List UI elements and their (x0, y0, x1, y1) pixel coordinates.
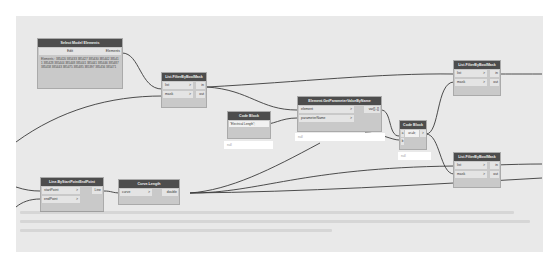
port-arrow-icon: > (189, 82, 191, 89)
port-arrow-icon: > (350, 115, 352, 122)
input-port-parametername[interactable]: parameterName> (299, 115, 354, 122)
node-title: Curve.Length (119, 180, 179, 188)
input-port-mask[interactable]: mask> (163, 91, 193, 98)
output-port-in[interactable]: in (490, 162, 499, 169)
port-arrow-icon: > (189, 91, 191, 98)
output-port-in[interactable]: in (196, 82, 205, 89)
code-block-node-2[interactable]: Code Block a a<=b; > b (399, 120, 427, 150)
port-arrow-icon: > (148, 189, 150, 196)
node-title: List.FilterByBoolMask (454, 61, 500, 69)
code-block-1-preview: null (224, 141, 273, 149)
port-label: mask (457, 172, 465, 176)
print-bleed-through (20, 205, 540, 245)
curve-length-node[interactable]: Curve.Length curve> double (118, 179, 180, 205)
input-port-list[interactable]: list> (455, 162, 487, 169)
code-block-2-preview: null (398, 152, 431, 160)
code-block-node-1[interactable]: Code Block "Electrical Length"; (227, 111, 271, 139)
port-label: startPoint (44, 188, 58, 192)
node-title: Select Model Elements (38, 39, 122, 47)
select-model-elements-node[interactable]: Select Model Elements Edit Elements Elem… (37, 38, 123, 89)
input-port-mask[interactable]: mask> (455, 79, 487, 86)
input-port-endpoint[interactable]: endPoint> (42, 196, 80, 203)
output-port-out[interactable]: out (490, 171, 499, 178)
node-title: Code Block (400, 121, 426, 129)
port-arrow-icon: > (483, 162, 485, 169)
element-id-preview: Elements : 385420 385433 385427 385430 3… (39, 56, 121, 87)
input-port-b[interactable]: b (401, 138, 404, 145)
get-parameter-value-preview: null (295, 133, 385, 141)
input-port-mask[interactable]: mask> (455, 171, 487, 178)
node-title: Code Block (228, 112, 270, 120)
output-port-out[interactable]: out (490, 79, 499, 86)
port-label: mask (165, 92, 173, 96)
input-port-list[interactable]: list> (455, 70, 487, 77)
input-port-element[interactable]: element> (299, 106, 354, 113)
code-editor[interactable]: "Electrical Length"; (229, 121, 269, 127)
port-arrow-icon: > (483, 79, 485, 86)
node-title: List.FilterByBoolMask (162, 73, 206, 81)
output-port[interactable]: > (420, 130, 426, 137)
filter-by-bool-mask-node-2[interactable]: List.FilterByBoolMask list> in mask> out (453, 60, 501, 96)
output-port-elements[interactable]: Elements (101, 48, 121, 55)
input-port-list[interactable]: list> (163, 82, 193, 89)
port-arrow-icon: > (483, 70, 485, 77)
port-arrow-icon: > (76, 187, 78, 194)
edit-selection-button[interactable]: Edit (39, 48, 101, 55)
port-label: list (165, 83, 169, 87)
output-port-double[interactable]: double (162, 189, 178, 196)
filter-by-bool-mask-node-1[interactable]: List.FilterByBoolMask list> in mask> out (161, 72, 207, 108)
input-port-startpoint[interactable]: startPoint> (42, 187, 80, 194)
port-arrow-icon: > (483, 171, 485, 178)
node-title: Element.GetParameterValueByName (298, 97, 381, 105)
port-arrow-icon: > (76, 196, 78, 203)
port-arrow-icon: > (350, 106, 352, 113)
port-label: list (457, 163, 461, 167)
filter-by-bool-mask-node-3[interactable]: List.FilterByBoolMask list> in mask> out (453, 152, 501, 188)
output-port-out[interactable]: out (196, 91, 205, 98)
port-label: parameterName (301, 116, 326, 120)
output-port-var[interactable]: var[]..[] (364, 106, 380, 113)
node-title: List.FilterByBoolMask (454, 153, 500, 161)
input-port-a[interactable]: a (401, 130, 404, 137)
node-title: Line.ByStartPointEndPoint (41, 178, 103, 186)
output-port-in[interactable]: in (490, 70, 499, 77)
input-port-curve[interactable]: curve> (120, 189, 152, 196)
port-label: mask (457, 80, 465, 84)
code-editor[interactable]: a<=b; (405, 130, 419, 137)
port-label: element (301, 107, 313, 111)
port-label: list (457, 71, 461, 75)
port-label: curve (122, 190, 130, 194)
get-parameter-value-node[interactable]: Element.GetParameterValueByName element>… (297, 96, 382, 132)
output-port-line[interactable]: Line (92, 187, 102, 194)
port-label: endPoint (44, 197, 57, 201)
